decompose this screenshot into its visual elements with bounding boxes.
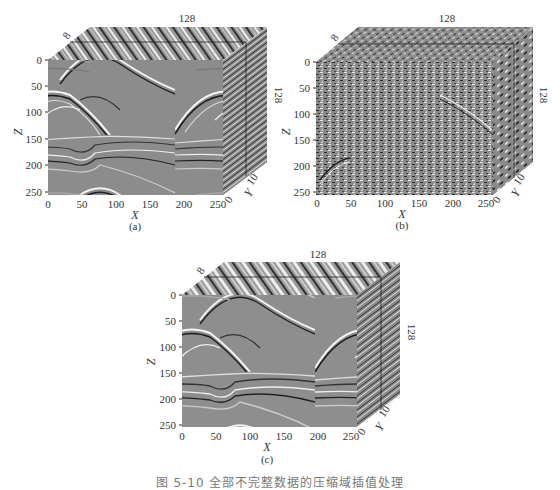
panel-a: 0 50 100 150 200 250 Z 0 50 100 150 200 … — [0, 0, 280, 240]
svg-text:250: 250 — [26, 186, 43, 198]
top-label-8: 8 — [194, 264, 207, 276]
svg-text:0: 0 — [45, 198, 51, 210]
z-axis: 0 50 100 150 200 250 Z — [144, 289, 182, 431]
panel-b-label: (b) — [382, 219, 422, 231]
svg-text:200: 200 — [160, 393, 177, 405]
svg-text:Y: Y — [508, 185, 524, 200]
svg-text:Z: Z — [279, 128, 293, 135]
top-label-8: 8 — [60, 29, 73, 41]
svg-text:0: 0 — [179, 430, 185, 442]
svg-text:150: 150 — [276, 430, 293, 442]
panel-a-label: (a) — [115, 220, 155, 232]
x-axis: 0 50 100 150 200 250 X — [179, 430, 360, 454]
z-axis: 0 50 100 150 200 250 Z — [279, 56, 316, 198]
front-face — [48, 60, 223, 195]
panel-c: 0 50 100 150 200 250 Z 0 50 100 150 200 … — [140, 240, 420, 470]
svg-text:50: 50 — [77, 198, 89, 210]
svg-text:150: 150 — [294, 134, 311, 146]
svg-text:100: 100 — [242, 430, 259, 442]
svg-text:0: 0 — [314, 197, 320, 209]
svg-text:100: 100 — [108, 198, 125, 210]
svg-text:0: 0 — [171, 289, 177, 301]
side-label-128: 128 — [406, 324, 418, 341]
top-label-128: 128 — [310, 248, 327, 260]
svg-text:Y: Y — [372, 419, 388, 434]
front-face — [316, 62, 493, 195]
svg-text:100: 100 — [377, 197, 394, 209]
svg-text:150: 150 — [160, 367, 177, 379]
svg-text:100: 100 — [26, 106, 43, 118]
svg-text:50: 50 — [165, 315, 177, 327]
svg-text:50: 50 — [346, 197, 358, 209]
seismic-cube-b: 0 50 100 150 200 250 Z 0 50 100 150 200 … — [280, 0, 560, 240]
top-label-128: 128 — [179, 12, 196, 24]
front-face — [182, 295, 357, 427]
svg-text:50: 50 — [211, 430, 223, 442]
side-label-128: 128 — [538, 87, 550, 104]
svg-text:100: 100 — [294, 108, 311, 120]
top-label-128: 128 — [439, 12, 456, 24]
seismic-cube-a: 0 50 100 150 200 250 Z 0 50 100 150 200 … — [0, 0, 280, 240]
svg-text:Y: Y — [241, 185, 257, 200]
panel-c-label: (c) — [247, 453, 287, 465]
svg-text:150: 150 — [26, 133, 43, 145]
svg-text:200: 200 — [294, 160, 311, 172]
svg-text:150: 150 — [411, 197, 428, 209]
top-label-8: 8 — [328, 31, 341, 43]
z-axis: 0 50 100 150 200 250 Z — [11, 54, 48, 198]
svg-text:Z: Z — [11, 128, 25, 135]
svg-text:200: 200 — [445, 197, 462, 209]
svg-text:100: 100 — [160, 341, 177, 353]
svg-text:250: 250 — [294, 186, 311, 198]
svg-text:0: 0 — [37, 54, 43, 66]
svg-text:250: 250 — [160, 419, 177, 431]
svg-text:150: 150 — [142, 198, 159, 210]
figure-caption: 图 5-10 全部不完整数据的压缩域插值处理 — [0, 473, 560, 490]
svg-text:200: 200 — [26, 159, 43, 171]
svg-text:0: 0 — [305, 56, 311, 68]
svg-text:50: 50 — [31, 80, 43, 92]
svg-text:200: 200 — [176, 198, 193, 210]
panel-b: 0 50 100 150 200 250 Z 0 50 100 150 200 … — [280, 0, 560, 240]
svg-text:50: 50 — [299, 82, 311, 94]
svg-text:200: 200 — [310, 430, 327, 442]
seismic-cube-c: 0 50 100 150 200 250 Z 0 50 100 150 200 … — [140, 240, 420, 470]
x-axis: 0 50 100 150 200 250 X — [314, 197, 495, 221]
svg-text:X: X — [262, 440, 271, 454]
x-axis: 0 50 100 150 200 250 X — [45, 198, 227, 222]
svg-text:Z: Z — [144, 358, 158, 365]
